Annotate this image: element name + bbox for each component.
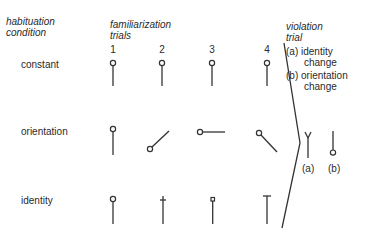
stimulus-constant-4-icon xyxy=(264,60,269,86)
stimulus-orientation-1-icon xyxy=(110,126,115,155)
stimulus-orientation-3-icon xyxy=(197,129,225,134)
violation-stimulus-b-icon xyxy=(330,131,335,155)
stimulus-identity-3-icon xyxy=(211,198,215,225)
stimulus-constant-3-icon xyxy=(209,60,214,86)
stimulus-constant-1-icon xyxy=(110,60,115,86)
stimulus-identity-1-icon xyxy=(110,196,115,224)
stimulus-identity-4-icon xyxy=(263,196,271,224)
violation-stimulus-a-fork-icon xyxy=(305,132,311,158)
stimulus-identity-2-icon xyxy=(160,196,166,224)
stimulus-orientation-4-icon xyxy=(256,130,277,152)
stimulus-diagram xyxy=(0,0,365,238)
stimulus-constant-2-icon xyxy=(159,60,164,86)
stimulus-orientation-2-icon xyxy=(147,131,169,152)
violation-bracket xyxy=(282,43,300,228)
